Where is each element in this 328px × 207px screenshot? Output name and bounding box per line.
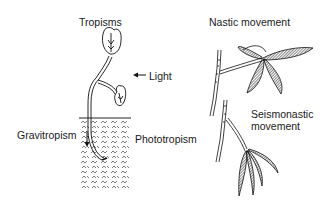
nastic-movement-title: Nastic movement bbox=[209, 16, 290, 28]
gravitropism-label: Gravitropism bbox=[17, 129, 77, 141]
phototropism-label: Phototropism bbox=[135, 133, 197, 145]
seismonastic-label-line2: movement bbox=[251, 120, 300, 132]
seismonastic-label-line1: Seismonastic bbox=[251, 108, 313, 120]
light-label: Light bbox=[149, 70, 172, 82]
soil-block bbox=[79, 118, 131, 191]
tropisms-title: Tropisms bbox=[79, 16, 122, 28]
light-arrow-icon bbox=[133, 73, 146, 78]
diagram-illustration bbox=[0, 0, 328, 207]
nastic-plant-icon bbox=[210, 46, 313, 116]
